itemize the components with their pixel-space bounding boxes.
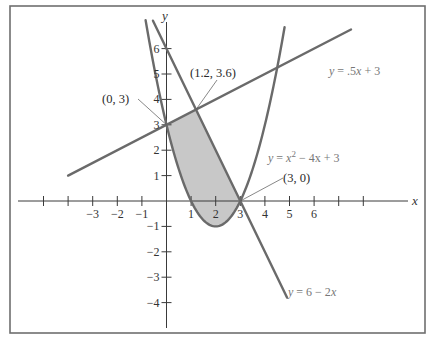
x-tick-label: 1: [188, 207, 194, 221]
annotation-point-3-0: (3, 0): [283, 171, 310, 185]
x-tick-label: 2: [213, 207, 219, 221]
y-tick-label: 2: [154, 143, 160, 157]
y-tick-label: 1: [154, 169, 160, 183]
equation-label-line1: y = .5x + 3: [328, 64, 380, 78]
x-axis-label: x: [411, 193, 418, 208]
x-tick-label: 3: [237, 207, 243, 221]
y-tick-label: −1: [147, 219, 160, 233]
y-tick-label: 6: [154, 42, 160, 56]
graph-figure: y x (0, 3) (1.2, 3.6) (3, 0) −3−2−112345…: [0, 0, 429, 344]
x-tick-label: −3: [86, 207, 99, 221]
equation-label-parabola: y = x2 − 4x + 3: [267, 149, 339, 165]
x-tick-label: 5: [287, 207, 293, 221]
x-tick-label: 4: [262, 207, 268, 221]
y-tick-label: 5: [154, 67, 160, 81]
y-axis-label: y: [160, 8, 168, 23]
y-tick-label: 3: [154, 118, 160, 132]
annotation-point-1.2-3.6: (1.2, 3.6): [190, 66, 236, 80]
y-tick-label: −3: [147, 270, 160, 284]
y-tick-label: −4: [147, 296, 160, 310]
y-tick-label: −2: [147, 245, 160, 259]
annotation-point-0-3: (0, 3): [102, 92, 129, 106]
x-tick-label: 6: [311, 207, 317, 221]
equation-label-line2: y = 6 − 2x: [287, 285, 337, 299]
y-tick-label: 4: [154, 92, 160, 106]
x-tick-label: −2: [111, 207, 124, 221]
